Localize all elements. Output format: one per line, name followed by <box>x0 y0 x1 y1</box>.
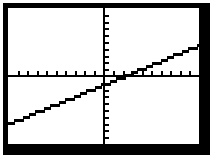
calculator-screen <box>0 0 217 164</box>
plot-viewport <box>8 8 199 144</box>
function-plot <box>8 8 199 144</box>
axis-layer <box>8 8 199 144</box>
